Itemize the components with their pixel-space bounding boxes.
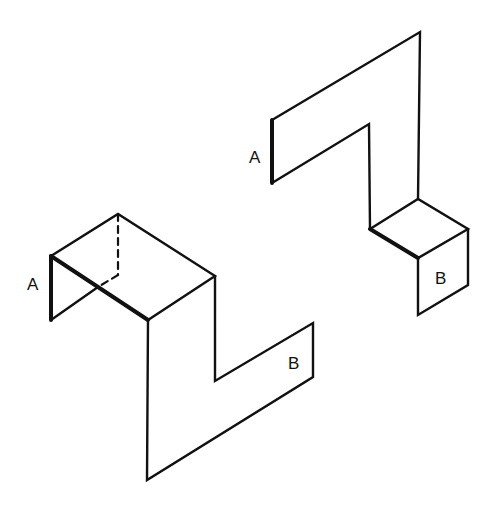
right-cube-top (370, 199, 468, 258)
right-label-b: B (435, 269, 446, 288)
isometric-diagram: A B A B (0, 0, 498, 507)
right-label-a: A (249, 148, 261, 167)
left-flap-a-bottom (51, 287, 98, 320)
right-inner-outline (272, 124, 370, 229)
left-hidden-edge-diagonal (98, 275, 118, 287)
right-figure: A B (249, 32, 468, 315)
left-front-face (147, 276, 313, 480)
right-fold-edge (370, 229, 418, 258)
right-upper-outline (272, 32, 420, 199)
left-label-a: A (27, 275, 39, 294)
left-figure: A B (27, 214, 313, 480)
left-label-b: B (288, 354, 299, 373)
